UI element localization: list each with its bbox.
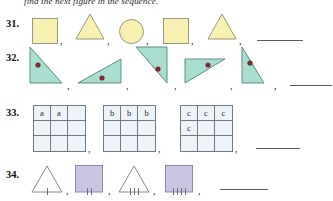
sequence-item: a a ,	[33, 105, 103, 152]
sequence-items-31: , , , ,	[32, 14, 303, 44]
grid-cell	[138, 121, 155, 136]
grid-cell	[215, 136, 232, 151]
grid-cell	[68, 106, 85, 121]
problem-number-31: 31.	[6, 18, 19, 29]
grid-cell: b	[104, 106, 121, 121]
grid-cell	[181, 136, 198, 151]
letter-grid: b b b	[103, 105, 156, 152]
yellow-square-shape	[163, 18, 189, 44]
green-right-triangle-shape	[238, 45, 272, 89]
grid-cell	[51, 136, 68, 151]
grid-cell	[198, 121, 215, 136]
green-right-triangle-shape	[134, 45, 172, 89]
tally-tick	[173, 188, 174, 195]
grid-cell	[121, 136, 138, 151]
yellow-triangle-shape	[75, 13, 105, 44]
purple-square-shape	[72, 164, 106, 194]
grid-cell: b	[121, 106, 138, 121]
grid-cell	[104, 136, 121, 151]
item-separator: ,	[189, 37, 194, 45]
sequence-items-32: , , ,	[28, 48, 332, 89]
sequence-item: ,	[162, 164, 210, 194]
instruction-text: find the next figure in the sequence.	[24, 0, 158, 6]
item-separator: ,	[228, 82, 233, 90]
grid-cell: c	[215, 106, 232, 121]
sequence-items-34: , ,	[30, 164, 268, 194]
item-separator: ,	[233, 145, 238, 153]
item-separator: ,	[124, 82, 129, 90]
problem-row-34: 34. ,	[0, 164, 333, 201]
grid-cell	[34, 121, 51, 136]
white-triangle-shape	[117, 164, 151, 194]
answer-blank-32[interactable]	[290, 84, 332, 86]
item-separator: ,	[196, 187, 201, 195]
letter-grid: c c c c	[180, 105, 233, 152]
grid-cell	[104, 121, 121, 136]
tally-tick	[134, 188, 135, 195]
green-right-triangle-shape	[76, 45, 124, 89]
grid-cell: a	[34, 106, 51, 121]
letter-grid: a a	[33, 105, 86, 152]
grid-cell	[198, 136, 215, 151]
sequence-item: b b b ,	[103, 105, 180, 152]
answer-blank-31[interactable]	[257, 39, 303, 41]
problem-row-33: 33. a a , b b	[0, 104, 333, 154]
item-separator: ,	[105, 37, 110, 45]
sequence-item: ,	[119, 19, 163, 44]
sequence-item: ,	[207, 13, 251, 44]
tally-tick	[177, 188, 178, 195]
answer-blank-34[interactable]	[220, 188, 268, 190]
grid-cell: c	[198, 106, 215, 121]
grid-cell: a	[51, 106, 68, 121]
item-separator: ,	[144, 37, 149, 45]
yellow-circle-shape	[119, 19, 144, 44]
sequence-item: ,	[75, 13, 119, 44]
tally-tick	[87, 188, 88, 195]
item-separator: ,	[64, 187, 69, 195]
tally-ticks	[117, 188, 151, 195]
tally-tick	[47, 188, 48, 195]
tally-ticks	[162, 188, 196, 195]
tally-ticks	[72, 188, 106, 195]
sequence-item: ,	[28, 45, 76, 89]
item-separator: ,	[106, 187, 111, 195]
answer-blank-33[interactable]	[256, 147, 300, 149]
problem-row-31: 31. , , , ,	[0, 14, 333, 48]
problem-number-32: 32.	[6, 52, 19, 63]
tally-tick	[185, 188, 186, 195]
sequence-item: ,	[238, 45, 284, 89]
purple-square-shape	[162, 164, 196, 194]
sequence-item: ,	[72, 164, 117, 194]
grid-cell	[121, 121, 138, 136]
grid-cell	[34, 136, 51, 151]
item-separator: ,	[237, 37, 242, 45]
problem-row-32: 32. , ,	[0, 48, 333, 92]
grid-cell: b	[138, 106, 155, 121]
grid-cell	[215, 121, 232, 136]
tally-tick	[138, 188, 139, 195]
sequence-item: ,	[182, 45, 238, 89]
tally-tick	[91, 188, 92, 195]
grid-cell	[138, 136, 155, 151]
tally-tick	[181, 188, 182, 195]
sequence-item: ,	[76, 45, 134, 89]
sequence-item: ,	[117, 164, 162, 194]
item-separator: ,	[86, 145, 91, 153]
item-separator: ,	[65, 82, 70, 90]
grid-cell: c	[181, 121, 198, 136]
sequence-item: ,	[163, 18, 207, 44]
problem-number-33: 33.	[6, 107, 19, 118]
green-right-triangle-shape	[182, 45, 228, 89]
yellow-triangle-shape	[207, 13, 237, 44]
white-triangle-shape	[30, 164, 64, 194]
grid-cell	[68, 121, 85, 136]
tally-tick	[130, 188, 131, 195]
item-separator: ,	[156, 145, 161, 153]
tally-ticks	[30, 188, 64, 195]
sequence-items-33: a a , b b b	[33, 104, 300, 152]
item-separator: ,	[58, 37, 63, 45]
item-separator: ,	[172, 82, 177, 90]
sequence-item: ,	[134, 45, 182, 89]
sequence-item: ,	[30, 164, 72, 194]
yellow-square-shape	[32, 18, 58, 44]
